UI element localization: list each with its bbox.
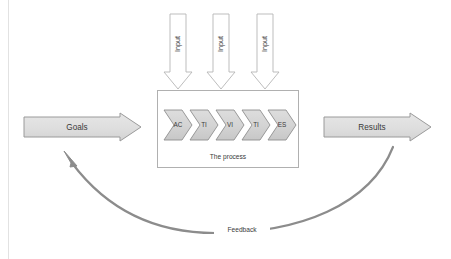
process-diagram: Input Input Input AC TI VI — [0, 0, 451, 259]
process-step-label: TI — [201, 121, 207, 128]
feedback-label: Feedback — [228, 226, 258, 233]
goals-block: Goals — [24, 113, 141, 141]
process-caption: The process — [210, 153, 247, 161]
process-step-label: VI — [227, 121, 233, 128]
input-arrow-3: Input — [251, 14, 279, 89]
input-arrow-label: Input — [173, 36, 182, 52]
input-arrow-label: Input — [260, 36, 269, 52]
goals-label: Goals — [66, 123, 87, 132]
process-step-label: ES — [278, 121, 287, 128]
process-step-label: TI — [253, 121, 259, 128]
results-block: Results — [324, 113, 431, 141]
input-arrow-label: Input — [216, 36, 225, 52]
diagram-canvas: Input Input Input AC TI VI — [0, 0, 451, 259]
input-arrow-2: Input — [207, 14, 235, 89]
process-step-label: AC — [174, 121, 183, 128]
feedback-arrowhead-icon — [64, 151, 77, 167]
process-box: AC TI VI TI ES The process — [158, 91, 299, 168]
input-arrow-1: Input — [164, 14, 192, 89]
results-label: Results — [358, 123, 385, 132]
